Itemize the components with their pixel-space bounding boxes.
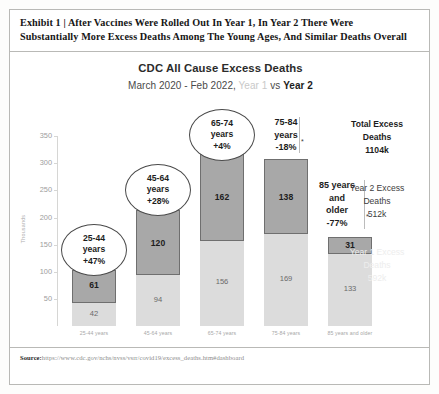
y-tick-mark-300: [54, 163, 57, 164]
callout-75-84-line2: years: [274, 129, 298, 142]
bar-value-year2-75-84: 138: [264, 192, 308, 202]
exhibit-headline-line1: Exhibit 1 | After Vaccines Were Rolled O…: [20, 16, 420, 30]
chart-plot-area: Thousands 350 300 250 200 150 100 50 61 …: [10, 106, 431, 346]
summary-year2-line1: Year 2 Excess: [332, 182, 422, 195]
chart-subtitle: March 2020 - Feb 2022, Year 1 vs Year 2: [10, 80, 431, 91]
y-tick-label-200: 200: [24, 214, 52, 222]
y-tick-mark-150: [54, 245, 57, 246]
callout-25-44: 25-44 years +47%: [61, 224, 127, 276]
source-label: Source:: [20, 354, 42, 361]
callout-65-74-line3: +4%: [213, 141, 230, 153]
summary-year1-line2: Deaths: [332, 259, 422, 272]
chart-subtitle-year2: Year 2: [283, 80, 313, 91]
callout-75-84-line1: 75-84: [274, 116, 297, 129]
y-tick-label-50: 50: [24, 295, 52, 303]
callout-45-64-line2: years: [147, 184, 169, 196]
y-tick-mark-250: [54, 190, 57, 191]
exhibit-headline: Exhibit 1 | After Vaccines Were Rolled O…: [20, 16, 420, 43]
bar-value-year1-25-44: 42: [72, 309, 116, 318]
callout-65-74: 65-74 years +4%: [189, 109, 255, 161]
summary-total-line2: Deaths: [332, 131, 422, 144]
summary-total-value: 1104k: [332, 144, 422, 157]
bar-value-year1-85-plus: 133: [328, 284, 372, 293]
summary-total-line1: Total Excess: [332, 118, 422, 131]
summary-total-excess-deaths: Total Excess Deaths 1104k: [332, 118, 422, 157]
chart-title: CDC All Cause Excess Deaths: [10, 62, 431, 74]
y-tick-mark-350: [54, 136, 57, 137]
bar-value-year2-65-74: 162: [200, 192, 244, 202]
y-tick-mark-50: [54, 299, 57, 300]
source-url[interactable]: https://www.cdc.gov/nchs/nvss/vsrr/covid…: [42, 354, 244, 361]
summary-year1-value: 592k: [332, 272, 422, 285]
callout-45-64-line3: +28%: [147, 196, 169, 208]
callout-25-44-line2: years: [83, 244, 105, 256]
callout-75-84-asterisk: *: [301, 138, 304, 145]
bar-group-25-44: 61 42: [72, 106, 116, 326]
callout-65-74-line2: years: [211, 129, 233, 141]
source-divider: [10, 347, 429, 348]
y-tick-label-150: 150: [24, 241, 52, 249]
callout-25-44-line1: 25-44: [83, 233, 105, 245]
y-tick-label-100: 100: [24, 268, 52, 276]
bar-group-45-64: 120 94: [136, 106, 180, 326]
headline-divider: [10, 51, 429, 52]
callout-45-64: 45-64 years +28%: [125, 164, 191, 216]
y-tick-label-250: 250: [24, 186, 52, 194]
callout-75-84: 75-84 years -18%: [255, 116, 317, 154]
summary-year2-line2: Deaths: [332, 195, 422, 208]
screenshot-page: Exhibit 1 | After Vaccines Were Rolled O…: [0, 0, 439, 394]
exhibit-headline-line2: Substantially More Excess Deaths Among T…: [20, 30, 420, 44]
callout-75-84-line3: -18%: [275, 141, 296, 154]
callout-75-84-bracket: [299, 117, 300, 153]
source-footer: Source:https://www.cdc.gov/nchs/nvss/vsr…: [20, 354, 244, 361]
chart-subtitle-year1: Year 1: [239, 80, 268, 91]
bar-value-year2-45-64: 120: [136, 238, 180, 248]
y-axis-line: [57, 136, 58, 326]
bar-value-year2-25-44: 61: [72, 280, 116, 290]
bar-value-year1-45-64: 94: [136, 295, 180, 304]
summary-year2-excess-deaths: Year 2 Excess Deaths 512k: [332, 182, 422, 221]
callout-45-64-line1: 45-64: [147, 173, 169, 185]
document-frame: Exhibit 1 | After Vaccines Were Rolled O…: [9, 9, 430, 385]
summary-year1-line1: Year 1 Excess: [332, 246, 422, 259]
chart-subtitle-period: March 2020 - Feb 2022,: [128, 80, 238, 91]
summary-year1-excess-deaths: Year 1 Excess Deaths 592k: [332, 246, 422, 285]
y-tick-mark-200: [54, 218, 57, 219]
y-tick-label-350: 350: [24, 132, 52, 140]
x-axis-label-85-plus: 85 years and older: [307, 330, 393, 336]
bar-value-year1-75-84: 169: [264, 274, 308, 283]
bar-value-year1-65-74: 156: [200, 277, 244, 286]
callout-25-44-line3: +47%: [83, 256, 105, 268]
y-tick-mark-100: [54, 272, 57, 273]
y-tick-label-300: 300: [24, 159, 52, 167]
summary-year2-value: 512k: [332, 208, 422, 221]
chart-subtitle-vs: vs: [267, 80, 283, 91]
callout-65-74-line1: 65-74: [211, 118, 233, 130]
